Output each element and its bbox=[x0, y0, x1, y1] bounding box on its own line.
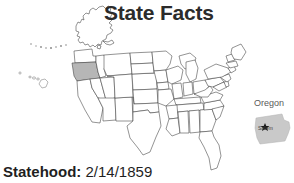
state-michigan bbox=[186, 60, 198, 82]
state-indiana bbox=[183, 82, 193, 96]
state-facts-slide: State Facts Oregon Salem Statehood: 2/14… bbox=[0, 0, 294, 183]
state-kansas bbox=[133, 89, 158, 104]
state-alabama bbox=[189, 110, 200, 133]
state-south-dakota bbox=[131, 63, 154, 74]
page-title: State Facts bbox=[104, 1, 214, 25]
state-minnesota bbox=[152, 51, 172, 71]
state-washington bbox=[74, 49, 96, 63]
state-north-dakota bbox=[130, 52, 153, 64]
inset-state-label: Oregon bbox=[254, 98, 284, 108]
oregon-inset-map: Oregon Salem bbox=[252, 98, 294, 150]
statehood-value: 2/14/1859 bbox=[86, 163, 153, 180]
state-maine bbox=[231, 44, 246, 60]
state-montana bbox=[104, 53, 132, 76]
statehood-fact: Statehood: 2/14/1859 bbox=[3, 163, 152, 180]
state-louisiana bbox=[166, 118, 180, 136]
united-states-map bbox=[0, 0, 294, 183]
state-nebraska-area bbox=[132, 73, 157, 90]
state-new-mexico bbox=[115, 97, 133, 121]
state-mississippi bbox=[178, 111, 189, 133]
hawaii-state bbox=[19, 72, 48, 88]
state-missouri-north bbox=[157, 82, 169, 90]
state-missouri bbox=[158, 89, 174, 106]
statehood-label: Statehood: bbox=[3, 163, 81, 180]
state-arkansas bbox=[166, 105, 178, 119]
state-illinois bbox=[172, 83, 183, 99]
state-wisconsin bbox=[166, 66, 183, 84]
capital-city-label: Salem bbox=[258, 125, 273, 131]
aleutian-islands bbox=[30, 43, 67, 49]
state-florida bbox=[199, 131, 221, 170]
